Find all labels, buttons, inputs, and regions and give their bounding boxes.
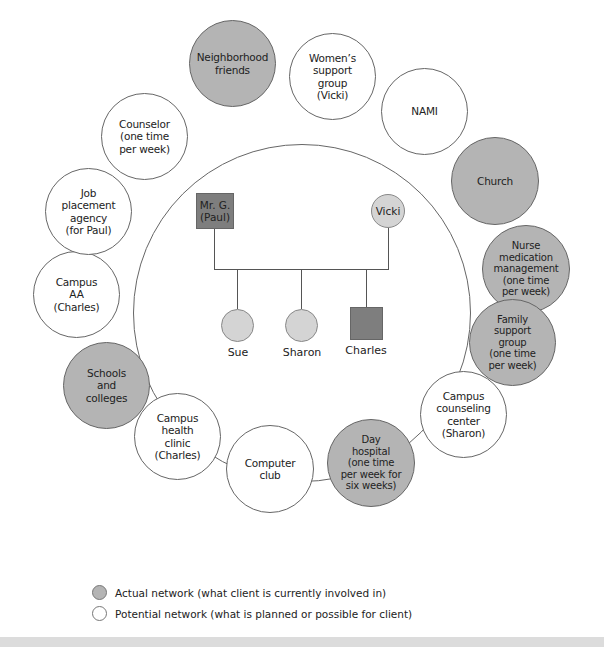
legend-potential: Potential network (what is planned or po… (92, 606, 412, 621)
node-label: Schools and colleges (86, 367, 128, 405)
child-sue-label: Sue (208, 346, 268, 359)
node-family-support-group: Family support group (one time per week) (469, 299, 556, 386)
child-line-charles (366, 269, 367, 307)
node-nurse-medication: Nurse medication management (one time pe… (482, 225, 570, 313)
node-label: Campus AA (Charles) (54, 276, 100, 314)
node-label: Family support group (one time per week) (488, 314, 536, 372)
node-schools-colleges: Schools and colleges (63, 342, 150, 429)
node-campus-counseling: Campus counseling center (Sharon) (420, 371, 507, 458)
mother-line (388, 228, 389, 269)
child-sue-circle (221, 309, 254, 342)
legend-potential-label: Potential network (what is planned or po… (115, 608, 412, 620)
potential-swatch-icon (92, 606, 107, 621)
child-charles-label: Charles (336, 344, 396, 357)
father-label: Mr. G. (Paul) (200, 199, 231, 223)
node-label: NAMI (411, 105, 437, 118)
node-day-hospital: Day hospital (one time per week for six … (327, 419, 415, 507)
node-label: Day hospital (one time per week for six … (341, 434, 402, 492)
child-sharon-label: Sharon (272, 346, 332, 359)
node-neighborhood-friends: Neighborhood friends (189, 20, 276, 107)
father-square: Mr. G. (Paul) (196, 193, 234, 229)
node-label: Campus health clinic (Charles) (155, 412, 201, 462)
node-label: Church (477, 175, 513, 188)
father-line (214, 229, 215, 269)
node-label: Nurse medication management (one time pe… (494, 240, 559, 298)
node-womens-support-group: Women’s support group (Vicki) (289, 33, 376, 120)
legend-actual: Actual network (what client is currently… (92, 585, 386, 600)
mother-circle: Vicki (371, 194, 405, 228)
node-label: Women’s support group (Vicki) (309, 52, 356, 102)
node-campus-aa: Campus AA (Charles) (33, 251, 120, 338)
child-line-sue (237, 269, 238, 309)
node-label: Neighborhood friends (197, 51, 269, 76)
node-label: Campus counseling center (Sharon) (436, 390, 491, 440)
mother-label: Vicki (376, 205, 401, 217)
actual-swatch-icon (92, 585, 107, 600)
node-label: Counselor (one time per week) (119, 118, 170, 156)
legend-actual-label: Actual network (what client is currently… (115, 587, 386, 599)
node-campus-health-clinic: Campus health clinic (Charles) (134, 393, 221, 480)
node-nami: NAMI (381, 68, 468, 155)
bottom-divider (0, 637, 604, 647)
node-church: Church (451, 137, 539, 225)
node-job-placement: Job placement agency (for Paul) (45, 168, 132, 255)
node-computer-club: Computer club (226, 425, 314, 513)
node-label: Computer club (245, 457, 296, 482)
child-sharon-circle (285, 309, 318, 342)
child-charles-square (350, 307, 383, 340)
node-label: Job placement agency (for Paul) (62, 187, 116, 237)
node-counselor: Counselor (one time per week) (101, 93, 188, 180)
child-line-sharon (301, 269, 302, 309)
